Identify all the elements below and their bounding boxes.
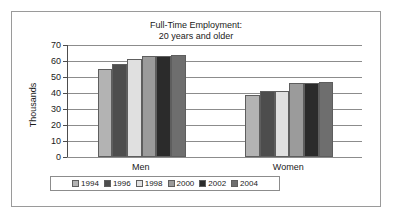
legend-swatch (136, 180, 143, 187)
y-tick-mark (63, 109, 67, 110)
y-tick-label: 20 (51, 121, 61, 130)
y-tick-label: 70 (51, 41, 61, 50)
bar[interactable] (98, 69, 113, 157)
bar[interactable] (171, 55, 186, 157)
bar[interactable] (127, 59, 142, 157)
y-tick-label: 60 (51, 57, 61, 66)
chart-frame: Full-Time Employment: 20 years and older… (11, 11, 381, 207)
legend-swatch (72, 180, 79, 187)
legend-swatch (231, 180, 238, 187)
y-tick-mark (63, 77, 67, 78)
y-tick-mark (63, 93, 67, 94)
legend-swatch (199, 180, 206, 187)
legend-item[interactable]: 2000 (168, 179, 195, 188)
y-tick-mark (63, 125, 67, 126)
legend-label: 2000 (177, 179, 195, 188)
y-tick-label: 40 (51, 89, 61, 98)
bar[interactable] (289, 83, 304, 157)
bar-group (98, 45, 186, 157)
bar-groups (68, 45, 362, 157)
y-tick-mark (63, 141, 67, 142)
legend-item[interactable]: 2004 (231, 179, 258, 188)
y-tick-mark (63, 61, 67, 62)
legend-label: 1998 (145, 179, 163, 188)
bar-group (245, 45, 333, 157)
x-category-label: Men (67, 162, 215, 172)
bar[interactable] (142, 56, 157, 157)
bar[interactable] (319, 82, 334, 157)
legend-swatch (104, 180, 111, 187)
legend-label: 1996 (113, 179, 131, 188)
legend-item[interactable]: 1996 (104, 179, 131, 188)
x-category-label: Women (215, 162, 363, 172)
legend-item[interactable]: 1998 (136, 179, 163, 188)
y-tick-label: 30 (51, 105, 61, 114)
y-tick-mark (63, 45, 67, 46)
legend-label: 2004 (240, 179, 258, 188)
bar[interactable] (112, 64, 127, 157)
plot-area: 706050403020100 (67, 45, 362, 157)
legend-item[interactable]: 1994 (72, 179, 99, 188)
y-tick-mark (63, 157, 67, 158)
bar[interactable] (275, 91, 290, 157)
bar[interactable] (156, 56, 171, 157)
y-tick-label: 50 (51, 73, 61, 82)
y-axis-title: Thousands (28, 70, 38, 140)
bar[interactable] (304, 83, 319, 157)
chart-legend: 199419961998200020022004 (50, 176, 280, 191)
gridline (67, 157, 362, 158)
legend-swatch (168, 180, 175, 187)
legend-label: 2002 (208, 179, 226, 188)
bar[interactable] (260, 91, 275, 157)
legend-label: 1994 (81, 179, 99, 188)
plot-wrapper: Thousands 706050403020100 MenWomen 19941… (12, 12, 382, 208)
y-tick-label: 10 (51, 137, 61, 146)
bar[interactable] (245, 95, 260, 157)
legend-item[interactable]: 2002 (199, 179, 226, 188)
y-tick-label: 0 (56, 153, 61, 162)
